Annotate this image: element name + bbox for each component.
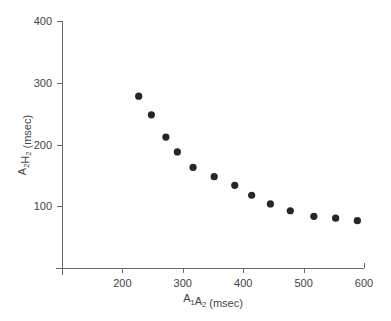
x-tick-label: 400 (234, 277, 252, 289)
x-axis: 200300400500600 (56, 263, 373, 289)
data-point (354, 217, 361, 224)
data-point (332, 215, 339, 222)
y-tick-label: 300 (34, 77, 52, 89)
data-point (287, 207, 294, 214)
y-axis-title: A2H2 (msec) (16, 115, 33, 175)
y-tick-label: 400 (34, 15, 52, 27)
scatter-chart: 200300400500600 100200300400 A1A2 (msec)… (0, 0, 391, 321)
y-tick-label: 100 (34, 200, 52, 212)
data-point (162, 133, 169, 140)
data-point (135, 93, 142, 100)
x-tick-label: 300 (174, 277, 192, 289)
x-tick-label: 200 (113, 277, 131, 289)
data-point (148, 111, 155, 118)
data-point (211, 173, 218, 180)
data-point (189, 164, 196, 171)
data-point (267, 200, 274, 207)
data-point (248, 192, 255, 199)
x-axis-title: A1A2 (msec) (183, 292, 243, 309)
plot-area (135, 93, 361, 225)
y-axis: 100200300400 (34, 15, 63, 275)
data-point (310, 213, 317, 220)
y-tick-label: 200 (34, 139, 52, 151)
x-tick-label: 500 (294, 277, 312, 289)
data-point (174, 148, 181, 155)
data-point (231, 182, 238, 189)
x-tick-label: 600 (355, 277, 373, 289)
